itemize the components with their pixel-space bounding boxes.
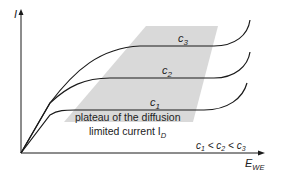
x-axis-label: EWE xyxy=(245,157,265,172)
concentration-relation: c1 < c2 < c3 xyxy=(196,140,246,152)
plateau-region xyxy=(64,26,218,122)
x-axis-arrow-icon xyxy=(258,151,265,156)
y-axis-label: I xyxy=(14,8,17,20)
plateau-annotation-line1: plateau of the diffusion xyxy=(75,111,181,123)
y-axis-arrow-icon xyxy=(19,9,24,15)
voltammogram-diagram: I c3 c2 c1 plateau of the diffusion limi… xyxy=(0,0,282,177)
plateau-annotation-line2: limited current ID xyxy=(89,125,167,140)
